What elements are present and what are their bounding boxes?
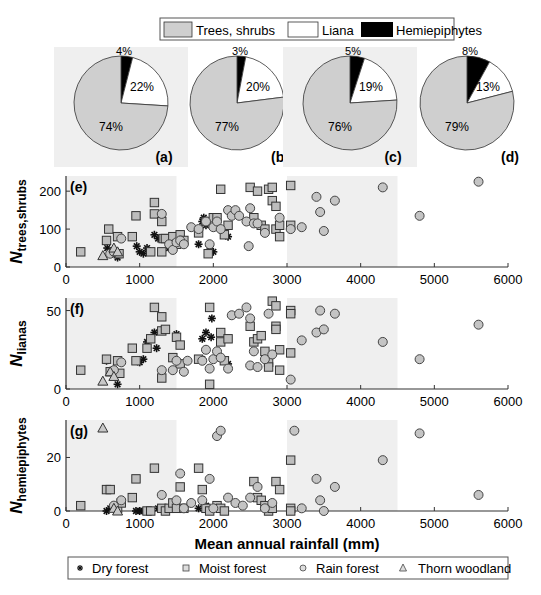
marker-circle (319, 226, 328, 235)
x-tick-label: 2000 (199, 272, 228, 287)
y-axis-title: Nlianas (7, 320, 29, 367)
marker-circle (117, 496, 126, 505)
y-tick-label: 100 (39, 222, 61, 237)
marker-circle (330, 482, 339, 491)
marker-circle (268, 350, 277, 359)
marker-square (77, 248, 85, 256)
pie-charts: 4%22%74%(a)3%20%77%(b)5%19%76%(c)8%13%79… (54, 45, 519, 167)
marker-square (286, 349, 294, 357)
marker-circle (297, 336, 306, 345)
pie-label-trees: 77% (215, 120, 239, 134)
marker-square (257, 331, 265, 339)
pie-label-hemi: 3% (232, 45, 248, 57)
marker-circle (176, 469, 185, 478)
marker-circle (378, 337, 387, 346)
marker-circle (415, 429, 424, 438)
scatter-panel-e: 01000200030004000500060000100200(e)Ntree… (7, 176, 522, 287)
x-tick-label: 4000 (346, 272, 375, 287)
marker-circle (205, 364, 214, 373)
legend-swatch-trees (164, 22, 192, 37)
marker-circle (224, 364, 233, 373)
pie-label-trees: 74% (99, 120, 123, 134)
marker-square (102, 236, 110, 244)
marker-circle (290, 426, 299, 435)
marker-circle (249, 347, 258, 356)
marker-circle (330, 196, 339, 205)
legend-label-trees: Trees, shrubs (196, 23, 275, 38)
marker-square (132, 475, 140, 483)
marker-circle (183, 356, 192, 365)
pie-label-liana: 22% (130, 80, 154, 94)
marker-square (172, 333, 180, 341)
marker-circle (209, 504, 218, 513)
marker-circle (319, 325, 328, 334)
marker-square (272, 325, 280, 333)
marker-circle (205, 474, 214, 483)
marker-square (128, 232, 136, 240)
marker-circle (415, 211, 424, 220)
x-tick-label: 5000 (420, 272, 449, 287)
marker-square (286, 309, 294, 317)
y-tick-label: 50 (47, 304, 61, 319)
marker-asterisk (208, 314, 216, 322)
marker-square (128, 493, 136, 501)
marker-circle (216, 426, 225, 435)
marker-square (158, 313, 166, 321)
legend-label: Dry forest (92, 561, 149, 576)
marker-circle (205, 240, 214, 249)
marker-square (176, 341, 184, 349)
marker-circle (246, 493, 255, 502)
marker-square (220, 507, 228, 515)
marker-square (272, 202, 280, 210)
marker-square (132, 357, 140, 365)
marker-asterisk (198, 335, 206, 343)
marker-circle (275, 213, 284, 222)
marker-circle (316, 306, 325, 315)
marker-square (205, 303, 213, 311)
forest-type-legend: Dry forestMoist forestRain forestThorn w… (68, 557, 511, 579)
marker-circle (168, 366, 177, 375)
marker-circle (253, 363, 262, 372)
marker-circle (286, 375, 295, 384)
marker-circle (242, 303, 251, 312)
marker-circle (264, 309, 273, 318)
legend-swatch-liana (288, 22, 318, 37)
pie-label-trees: 76% (328, 120, 352, 134)
marker-circle (378, 183, 387, 192)
x-tick-label: 5000 (420, 516, 449, 531)
marker-square (272, 302, 280, 310)
marker-circle (235, 309, 244, 318)
marker-asterisk (195, 240, 203, 248)
pie-label-hemi: 5% (345, 45, 361, 57)
marker-square (286, 456, 294, 464)
panel-label: (e) (70, 179, 87, 195)
y-tick-label: 200 (39, 184, 61, 199)
marker-square (77, 366, 85, 374)
marker-square (158, 248, 166, 256)
marker-circle (157, 209, 166, 218)
y-tick-label: 0 (54, 382, 61, 397)
marker-square (150, 464, 158, 472)
marker-square (272, 477, 280, 485)
marker-square (77, 501, 85, 509)
marker-circle (319, 507, 328, 516)
shaded-band (287, 420, 398, 511)
marker-asterisk (153, 344, 161, 352)
pie-legend: Trees, shrubs Liana Hemiepiphytes (160, 18, 482, 40)
marker-circle (286, 225, 295, 234)
marker-square (286, 507, 294, 515)
marker-circle (172, 356, 181, 365)
marker-circle (179, 367, 188, 376)
panel-label: (d) (501, 149, 519, 165)
x-tick-label: 1000 (125, 394, 154, 409)
marker-square (224, 335, 232, 343)
marker-circle (117, 358, 126, 367)
marker-square (132, 212, 140, 220)
marker-circle (312, 192, 321, 201)
pie-label-liana: 19% (359, 80, 383, 94)
legend-label-hemiepiphytes: Hemiepiphytes (396, 23, 482, 38)
marker-circle (297, 504, 306, 513)
pie-label-liana: 13% (476, 80, 500, 94)
x-tick-label: 2000 (199, 394, 228, 409)
marker-circle (198, 496, 207, 505)
